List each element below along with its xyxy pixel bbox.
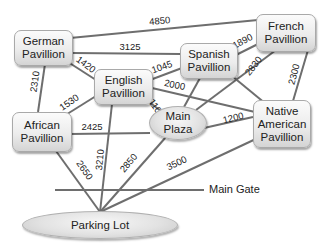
weight-african-parking: 2650 — [74, 158, 95, 182]
main-gate-label: Main Gate — [209, 183, 260, 195]
weight-plaza-native: 1200 — [222, 110, 245, 126]
node-label-line1: Spanish — [188, 48, 230, 60]
weight-english-parking: 3210 — [93, 149, 106, 171]
node-label-line3: Pavillion — [261, 131, 304, 143]
node-french-pavillion: FrenchPavillion — [256, 14, 316, 52]
node-parking-lot: Parking Lot — [22, 211, 178, 239]
edge-plaza-parking — [100, 137, 166, 212]
node-label-line2: Pavillion — [188, 61, 231, 73]
edge-african-plaza — [70, 133, 150, 134]
node-label: Parking Lot — [71, 219, 129, 232]
edge-native-parking — [100, 137, 260, 212]
node-african-pavillion: AfricanPavillion — [12, 112, 72, 152]
weight-german-spanish: 3125 — [119, 41, 140, 52]
weight-native-parking: 3500 — [165, 153, 189, 172]
weight-english-native: 2000 — [163, 77, 186, 92]
node-spanish-pavillion: SpanishPavillion — [180, 43, 238, 79]
node-german-pavillion: GermanPavillion — [14, 30, 73, 66]
node-main-plaza: MainPlaza — [149, 106, 207, 140]
node-label-line2: American — [258, 118, 307, 130]
weight-german-french: 4850 — [149, 14, 171, 27]
node-label-line1: Native — [266, 105, 299, 117]
node-label-line1: Main — [166, 110, 191, 122]
node-label-line1: English — [105, 74, 143, 86]
node-label-line2: Pavillion — [22, 48, 65, 60]
node-label-line2: Pavillion — [102, 87, 145, 99]
edge-spanish-plaza — [184, 78, 200, 107]
node-label-line1: German — [23, 35, 65, 47]
node-label-line2: Plaza — [164, 123, 193, 135]
node-label-line1: African — [24, 119, 60, 131]
node-label-line1: French — [268, 20, 304, 32]
node-native-american-pavillion: NativeAmericanPavillion — [253, 100, 311, 148]
node-label-line2: Pavillion — [265, 33, 308, 45]
weight-african-plaza: 2425 — [81, 121, 102, 132]
weight-german-african: 2310 — [28, 70, 42, 92]
weight-english-african: 1530 — [57, 92, 81, 113]
node-label-line2: Pavillion — [21, 132, 64, 144]
edge-german-spanish — [72, 53, 180, 54]
node-english-pavillion: EnglishPavillion — [94, 69, 153, 105]
weight-french-plaza: 2830 — [242, 54, 264, 77]
